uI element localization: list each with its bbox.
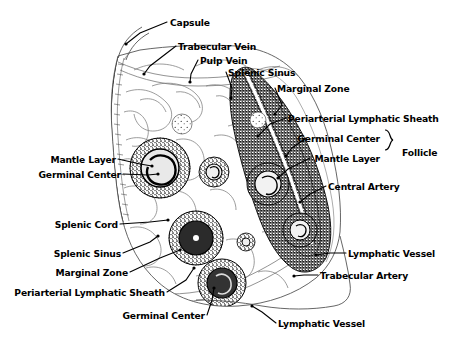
leader-trabecular-artery-endpoint — [292, 274, 295, 277]
label-marginal-zone-top: Marginal Zone — [277, 84, 349, 94]
label-splenic-sinus-bl: Splenic Sinus — [0, 249, 121, 259]
leader-marginal-zone-bl-endpoint — [178, 248, 181, 251]
leader-mantle-layer-l-endpoint — [150, 164, 153, 167]
leader-capsule-endpoint — [124, 42, 127, 45]
label-capsule: Capsule — [170, 18, 210, 28]
label-central-artery: Central Artery — [328, 182, 400, 192]
leader-mantle-layer-r-endpoint — [276, 176, 279, 179]
leader-trabecular-vein-endpoint — [142, 72, 145, 75]
leader-central-artery-endpoint — [298, 200, 301, 203]
label-germinal-center-r: Germinal Center — [0, 134, 380, 144]
leader-splenic-sinus-top-endpoint — [229, 96, 232, 99]
leader-lymphatic-vessel-b — [252, 306, 276, 323]
leader-marginal-zone-top-endpoint — [273, 112, 276, 115]
label-mantle-layer-l: Mantle Layer — [0, 155, 116, 165]
leader-germinal-center-b-endpoint — [212, 286, 215, 289]
leader-splenic-sinus-bl-endpoint — [156, 234, 159, 237]
label-splenic-sinus-top: Splenic Sinus — [228, 68, 295, 78]
label-pals-right: Periarterial Lymphatic Sheath — [288, 114, 439, 124]
group-label-follicle: Follicle — [402, 148, 437, 158]
label-trabecular-vein: Trabecular Vein — [178, 42, 256, 52]
spleen-histology-figure: CapsuleTrabecular VeinPulp VeinSplenic S… — [0, 0, 454, 338]
label-lymphatic-vessel-b: Lymphatic Vessel — [278, 319, 365, 329]
leader-lymphatic-vessel-b-endpoint — [250, 304, 253, 307]
leader-pulp-vein-endpoint — [188, 80, 191, 83]
leader-lymphatic-vessel-r-endpoint — [314, 253, 317, 256]
follicle-brace — [385, 130, 393, 150]
leader-splenic-cord-endpoint — [166, 218, 169, 221]
label-splenic-cord: Splenic Cord — [0, 220, 118, 230]
label-pulp-vein: Pulp Vein — [200, 56, 247, 66]
leader-capsule — [126, 22, 167, 44]
label-germinal-center-b: Germinal Center — [0, 311, 205, 321]
leader-pals-bottom-left-endpoint — [192, 266, 195, 269]
label-lymphatic-vessel-r: Lymphatic Vessel — [348, 249, 435, 259]
label-marginal-zone-bl: Marginal Zone — [0, 268, 128, 278]
label-pals-bottom-left: Periarterial Lymphatic Sheath — [0, 288, 165, 298]
leader-germinal-center-l-endpoint — [156, 172, 159, 175]
label-germinal-center-l: Germinal Center — [0, 170, 121, 180]
label-trabecular-artery: Trabecular Artery — [320, 271, 408, 281]
